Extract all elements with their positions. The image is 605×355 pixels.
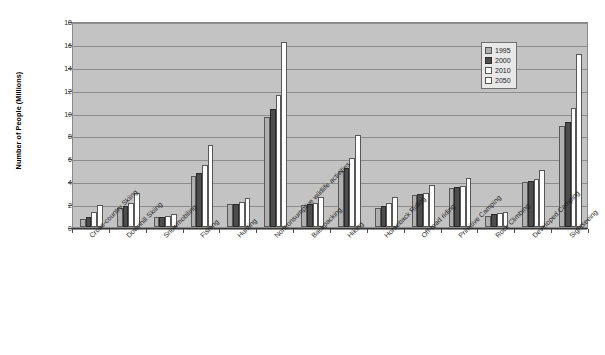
legend-label: 2050 — [495, 77, 511, 84]
legend-label: 2000 — [495, 57, 511, 64]
bar-group — [375, 23, 398, 227]
bar — [355, 135, 361, 227]
legend-item: 2000 — [485, 55, 511, 65]
bar-group — [264, 23, 287, 227]
legend-item: 2050 — [485, 75, 511, 85]
bar-group — [522, 23, 545, 227]
x-tick-mark — [330, 229, 331, 233]
y-axis-title-text: Number of People (Millions) — [15, 71, 24, 169]
legend: 1995200020102050 — [481, 42, 517, 89]
legend-item: 2010 — [485, 65, 511, 75]
x-tick-mark — [146, 229, 147, 233]
bar-group — [449, 23, 472, 227]
bar — [576, 54, 582, 227]
x-tick-mark — [367, 229, 368, 233]
x-tick-mark — [404, 229, 405, 233]
legend-label: 2010 — [495, 67, 511, 74]
x-tick-mark — [256, 229, 257, 233]
bar-chart: Number of People (Millions) 024681012141… — [0, 0, 605, 355]
legend-label: 1995 — [495, 47, 511, 54]
bar-group — [154, 23, 177, 227]
bar-group — [227, 23, 250, 227]
x-tick-mark — [477, 229, 478, 233]
x-tick-mark — [293, 229, 294, 233]
legend-swatch-icon — [485, 57, 492, 64]
x-tick-mark — [183, 229, 184, 233]
legend-swatch-icon — [485, 77, 492, 84]
bar-group — [338, 23, 361, 227]
y-axis-title: Number of People (Millions) — [8, 0, 30, 240]
x-tick-mark — [551, 229, 552, 233]
x-tick-mark — [441, 229, 442, 233]
bar — [208, 145, 214, 227]
bar-group — [80, 23, 103, 227]
x-tick-mark — [72, 229, 73, 233]
legend-item: 1995 — [485, 45, 511, 55]
x-tick-mark — [588, 229, 589, 233]
legend-swatch-icon — [485, 47, 492, 54]
bar-group — [191, 23, 214, 227]
y-axis-ticks: 024681012141618 — [38, 0, 72, 355]
legend-swatch-icon — [485, 67, 492, 74]
bar — [539, 170, 545, 227]
x-tick-mark — [514, 229, 515, 233]
bar — [281, 42, 287, 227]
x-tick-mark — [109, 229, 110, 233]
x-tick-mark — [219, 229, 220, 233]
